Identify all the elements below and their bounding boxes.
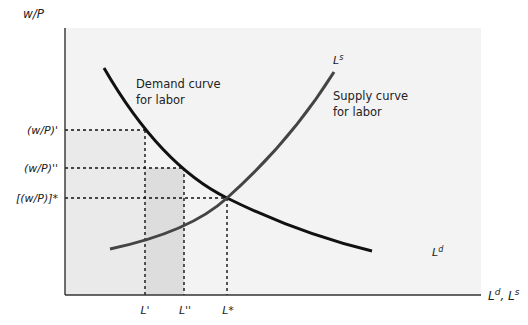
labor-market-chart: w/P Ld, Ls (w/P)' (w/P)'' [(w/P)]* L' L'… [0,0,528,325]
x-tick-l-double-prime: L'' [179,304,191,317]
shaded-region-l-prime-to-l-double-prime [145,168,184,295]
y-tick-wage-equilibrium: [(w/P)]* [16,192,59,205]
y-tick-wage-prime: (w/P)' [27,124,58,137]
shaded-region-wage-prime [65,130,145,295]
supply-label-line2: for labor [333,105,382,119]
supply-label-line1: Supply curve [333,89,408,103]
x-tick-l-star: L* [222,304,234,317]
demand-label-line2: for labor [136,93,185,107]
x-axis-title: Ld, Ls [488,287,520,303]
y-tick-wage-double-prime: (w/P)'' [24,162,58,175]
demand-label-line1: Demand curve [136,77,221,91]
x-tick-l-prime: L' [140,304,149,317]
y-axis-title: w/P [23,7,45,21]
